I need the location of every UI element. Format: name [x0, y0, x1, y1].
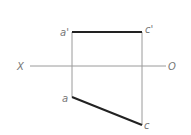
point-label-a-prime: a': [60, 27, 69, 38]
point-label-c-prime: c': [145, 24, 153, 35]
point-label-a: a: [62, 93, 68, 104]
projection-diagram: X O a' c' a c: [0, 0, 191, 135]
point-label-c: c: [144, 120, 150, 131]
top-projection-ac: [72, 97, 142, 125]
axis-label-o: O: [168, 61, 176, 72]
axis-label-x: X: [16, 61, 25, 72]
